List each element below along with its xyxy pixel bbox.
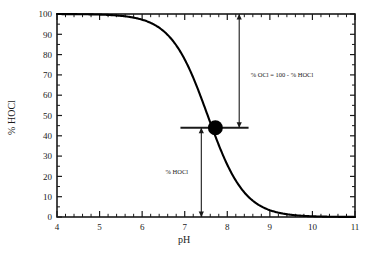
data-curve	[57, 14, 355, 217]
y-tick-label: 20	[43, 172, 53, 182]
y-tick-label: 70	[43, 70, 53, 80]
x-tick-label: 7	[182, 222, 187, 232]
x-tick-label: 6	[140, 222, 145, 232]
y-tick-label: 80	[43, 50, 53, 60]
ocl-arrow-head-start	[237, 14, 242, 20]
x-tick-label: 4	[55, 222, 60, 232]
x-tick-label: 10	[308, 222, 318, 232]
x-tick-label: 5	[97, 222, 102, 232]
hocl-arrow-head-end	[199, 212, 204, 218]
chart-plot-area: 45678910110102030405060708090100% OCl = …	[0, 0, 368, 255]
y-tick-label: 60	[43, 90, 53, 100]
plot-frame	[57, 14, 355, 217]
x-tick-label: 8	[225, 222, 230, 232]
y-tick-label: 90	[43, 30, 53, 40]
equivalence-point-marker	[208, 120, 223, 135]
y-tick-label: 30	[43, 151, 53, 161]
x-tick-label: 9	[268, 222, 273, 232]
y-tick-label: 10	[43, 192, 53, 202]
y-axis-title: % HOCl	[6, 83, 17, 153]
y-tick-label: 40	[43, 131, 53, 141]
y-tick-label: 100	[39, 9, 53, 19]
hocl-annotation: % HOCl	[166, 168, 189, 175]
ocl-annotation: % OCl = 100 - % HOCl	[251, 71, 314, 78]
x-tick-label: 11	[351, 222, 360, 232]
x-axis-title: pH	[0, 234, 368, 245]
y-tick-label: 50	[43, 111, 53, 121]
y-tick-label: 0	[48, 212, 53, 222]
chart-figure: 45678910110102030405060708090100% OCl = …	[0, 0, 368, 255]
